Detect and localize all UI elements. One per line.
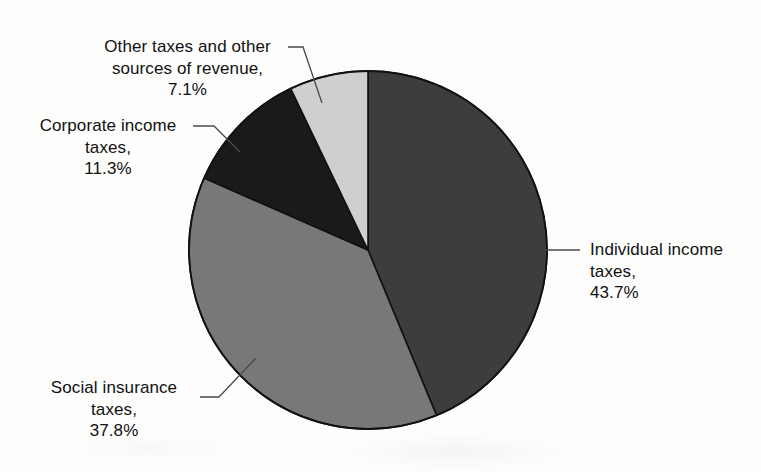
pie-label-social-insurance-taxes-value: 37.8% xyxy=(28,420,200,442)
pie-label-social-insurance-taxes-line2: taxes, xyxy=(28,399,200,421)
pie-label-other-taxes-line1: Other taxes and other xyxy=(80,36,295,58)
pie-label-individual-income-taxes: Individual income taxes, 43.7% xyxy=(590,239,760,304)
pie-chart-figure: Other taxes and other sources of revenue… xyxy=(0,0,761,472)
pie-label-corporate-income-taxes-value: 11.3% xyxy=(22,158,194,180)
pie-label-other-taxes-value: 7.1% xyxy=(80,79,295,101)
pie-label-individual-income-taxes-line2: taxes, xyxy=(590,261,760,283)
pie-label-social-insurance-taxes: Social insurance taxes, 37.8% xyxy=(28,377,200,442)
pie-label-other-taxes: Other taxes and other sources of revenue… xyxy=(80,36,295,101)
pie-label-individual-income-taxes-value: 43.7% xyxy=(590,282,760,304)
pie-label-other-taxes-line2: sources of revenue, xyxy=(80,58,295,80)
pie-label-corporate-income-taxes-line1: Corporate income xyxy=(22,115,194,137)
pie-label-individual-income-taxes-line1: Individual income xyxy=(590,239,760,261)
pie-label-corporate-income-taxes-line2: taxes, xyxy=(22,137,194,159)
pie-label-social-insurance-taxes-line1: Social insurance xyxy=(28,377,200,399)
pie-label-corporate-income-taxes: Corporate income taxes, 11.3% xyxy=(22,115,194,180)
